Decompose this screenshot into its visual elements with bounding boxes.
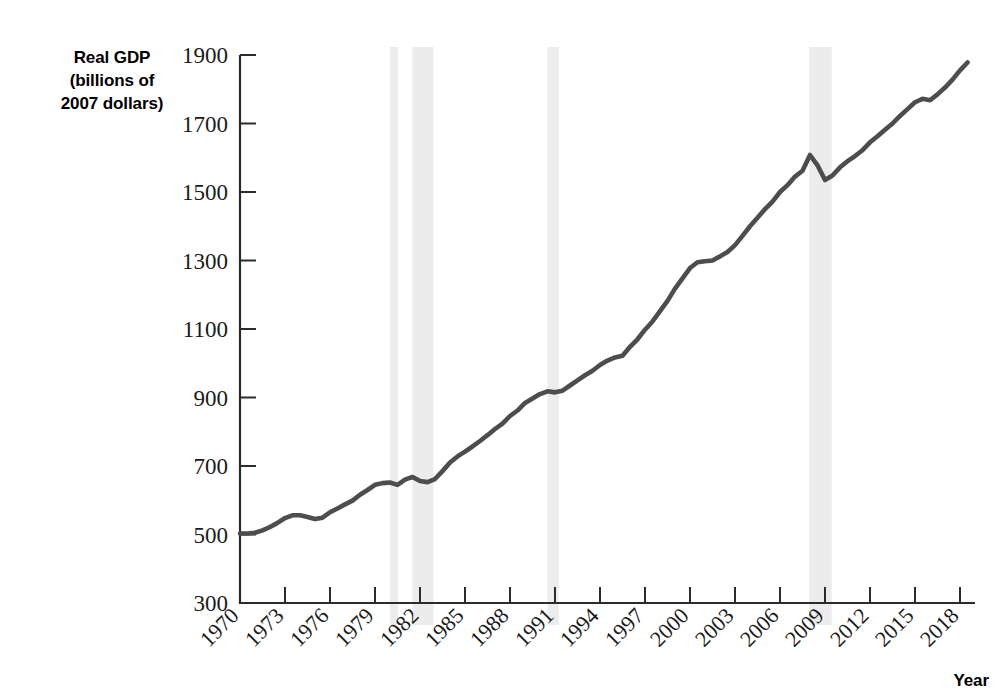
x-tick-label: 2018: [915, 603, 964, 652]
y-tick-label: 1500: [182, 180, 228, 205]
tick-marks-group: [240, 55, 960, 603]
x-axis-title: Year: [953, 671, 989, 691]
x-tick-label: 1997: [600, 603, 649, 652]
x-tick-label: 1988: [465, 603, 514, 652]
x-tick-label: 2003: [690, 603, 739, 652]
y-tick-label: 500: [194, 523, 229, 548]
y-tick-label: 700: [194, 454, 229, 479]
x-tick-label: 2012: [825, 603, 874, 652]
recession-band: [548, 47, 559, 625]
x-tick-labels-group: 1970197319761979198219851988199119941997…: [195, 603, 964, 652]
x-tick-label: 1979: [330, 603, 379, 652]
x-tick-label: 2000: [645, 603, 694, 652]
x-tick-label: 2015: [870, 603, 919, 652]
y-axis-title-line-2: (billions of: [34, 69, 190, 92]
x-tick-label: 1994: [555, 603, 604, 652]
y-axis-title-line-1: Real GDP: [34, 46, 190, 69]
x-tick-label: 1976: [285, 603, 334, 652]
gdp-data-line: [240, 63, 968, 534]
y-tick-label: 1700: [182, 112, 228, 137]
x-tick-label: 1973: [240, 603, 289, 652]
y-tick-label: 1300: [182, 249, 228, 274]
recession-band: [390, 47, 398, 625]
recession-band: [413, 47, 434, 625]
recession-band: [809, 47, 832, 625]
y-tick-labels-group: 19001700150013001100900700500300: [182, 43, 228, 616]
axis-lines: [240, 55, 975, 603]
recession-bands-group: [390, 47, 832, 625]
real-gdp-chart: Real GDP (billions of 2007 dollars) Year…: [0, 0, 1003, 699]
y-axis-title-line-3: 2007 dollars): [34, 92, 190, 115]
x-tick-label: 2006: [735, 603, 784, 652]
y-axis-title: Real GDP (billions of 2007 dollars): [34, 46, 190, 115]
y-tick-label: 1100: [183, 317, 228, 342]
y-tick-label: 900: [194, 386, 229, 411]
